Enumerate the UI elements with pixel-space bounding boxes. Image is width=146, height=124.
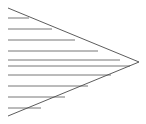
wedge-line-figure: [0, 0, 146, 124]
background-rect: [0, 0, 146, 124]
figure-canvas: [0, 0, 146, 124]
